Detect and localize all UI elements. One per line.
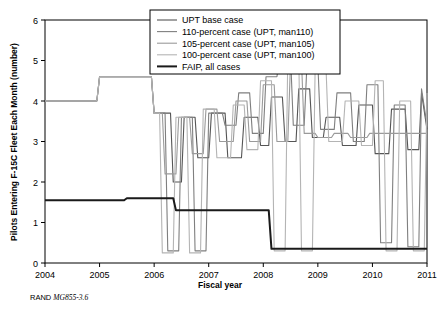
legend-label-0: UPT base case [182,15,243,25]
chart-container: 20042005200620072008200920102011 0123456… [0,0,444,314]
legend-label-4: FAIP, all cases [182,62,241,72]
x-tick-label: 2010 [362,270,382,280]
x-axis-title: Fiscal year [198,280,243,290]
x-tick-label: 2009 [308,270,328,280]
y-tick-label: 2 [33,178,38,188]
legend: UPT base case110-percent case (UPT, man1… [150,10,340,74]
y-tick-label: 3 [33,137,38,147]
x-tick-label: 2004 [35,270,55,280]
x-tick-label: 2005 [90,270,110,280]
line-chart: 20042005200620072008200920102011 0123456… [0,0,444,314]
y-tick-label: 6 [33,16,38,26]
legend-label-2: 105-percent case (UPT, man105) [182,39,315,49]
y-tick-label: 5 [33,56,38,66]
x-tick-label: 2011 [417,270,436,280]
y-tick-label: 0 [33,259,38,269]
legend-label-3: 100-percent case (UPT, man100) [182,50,315,60]
x-tick-label: 2007 [199,270,219,280]
source-note-id: MG855-3.6 [52,293,88,302]
source-note-prefix: RAND [30,293,53,302]
source-note: RAND MG855-3.6 [30,293,88,302]
x-tick-label: 2006 [144,270,164,280]
legend-label-1: 110-percent case (UPT, man110) [182,27,313,37]
x-tick-label: 2008 [253,270,273,280]
y-tick-label: 4 [33,97,38,107]
y-axis-title: Pilots Entering F-15C Fleet Each Month (… [9,43,19,241]
y-tick-label: 1 [33,218,38,228]
